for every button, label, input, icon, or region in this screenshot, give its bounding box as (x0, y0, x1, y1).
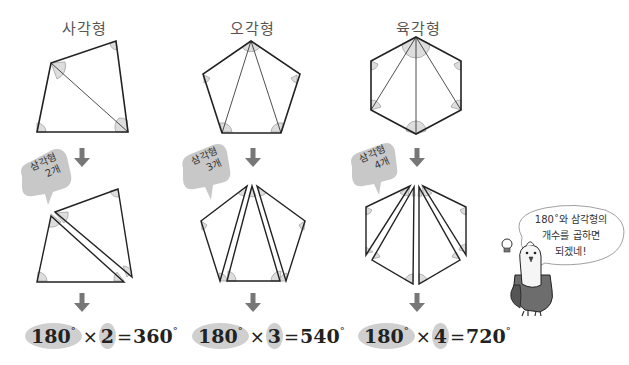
speech-line2: 개수를 곱하면 (521, 228, 621, 244)
arrow-down-icon (409, 293, 425, 312)
equals-sign: = (284, 326, 299, 347)
lightbulb-icon (502, 239, 512, 252)
diagram-canvas (0, 0, 629, 365)
times-sign: × (83, 326, 98, 347)
formula-count: 3 (266, 323, 283, 349)
hexagon-split (366, 186, 466, 284)
formula-result: 360 (133, 325, 173, 347)
equals-sign: = (117, 326, 132, 347)
arrow-down-icon (74, 293, 90, 312)
times-sign: × (416, 326, 431, 347)
formula-result: 720 (466, 325, 506, 347)
pentagon-split (201, 186, 305, 281)
arrow-down-icon (74, 148, 90, 167)
formula-pentagon: 180°×3=540° (192, 325, 345, 347)
times-sign: × (250, 326, 265, 347)
arrow-down-icon (245, 148, 261, 167)
quadrilateral-split (37, 189, 132, 282)
formula-count: 4 (432, 323, 449, 349)
formula-result: 540 (300, 325, 340, 347)
pentagon-diagonals (203, 41, 300, 133)
formula-base: 180° (358, 323, 415, 349)
formula-quadrilateral: 180°×2=360° (25, 325, 178, 347)
speech-text: 180˚와 삼각형의 개수를 곱하면 되겠네! (521, 212, 621, 260)
formula-base: 180° (192, 323, 249, 349)
formula-count: 2 (99, 323, 116, 349)
quadrilateral-diagonal (37, 41, 128, 132)
hexagon-diagonals (371, 37, 461, 134)
arrow-down-icon (409, 148, 425, 167)
formula-hexagon: 180°×4=720° (358, 325, 511, 347)
speech-line1: 180˚와 삼각형의 (521, 212, 621, 228)
arrow-down-icon (245, 293, 261, 312)
equals-sign: = (450, 326, 465, 347)
formula-base: 180° (25, 323, 82, 349)
speech-line3: 되겠네! (521, 244, 621, 260)
